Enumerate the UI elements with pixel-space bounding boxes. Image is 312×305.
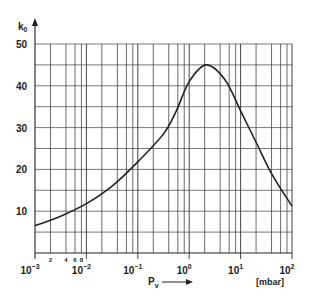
axes [35, 22, 292, 259]
x-decade-label: 10−1 [123, 263, 142, 276]
y-axis-title: k0 [18, 21, 28, 33]
y-tick-labels: 1020304050 [16, 39, 28, 217]
x-axis-title: Pv [148, 276, 159, 289]
grid [35, 44, 292, 259]
x-unit-label: [mbar] [256, 277, 284, 287]
x-minor-label: 4 [64, 257, 68, 263]
x-tick-labels: 246810−310−210−1100101102 [20, 257, 294, 276]
x-decade-label: 100 [177, 263, 192, 276]
x-decade-label: 10−2 [72, 263, 91, 276]
x-decade-label: 102 [279, 263, 294, 276]
y-tick-label: 40 [16, 81, 28, 92]
y-tick-label: 30 [16, 123, 28, 134]
x-minor-label: 6 [73, 257, 77, 263]
data-curve [35, 65, 292, 226]
x-axis-arrow-icon [186, 279, 193, 285]
x-decade-label: 10−3 [20, 263, 39, 276]
y-tick-label: 50 [16, 39, 28, 50]
y-tick-label: 20 [16, 164, 28, 175]
chart: 1020304050 246810−310−210−1100101102 k0 … [0, 0, 312, 305]
y-tick-label: 10 [16, 206, 28, 217]
y-axis-arrow-icon [32, 18, 38, 26]
x-decade-label: 101 [228, 263, 243, 276]
x-minor-label: 2 [49, 257, 53, 263]
